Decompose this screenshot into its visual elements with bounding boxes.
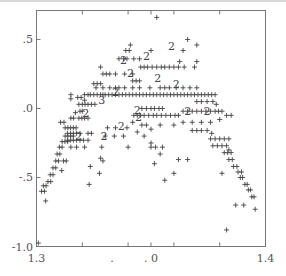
plus-marker [130, 85, 135, 90]
plus-marker [224, 143, 229, 148]
plus-marker [194, 99, 199, 104]
plus-marker [224, 227, 229, 232]
plus-marker [135, 129, 140, 134]
plus-marker [167, 85, 172, 90]
plus-marker [152, 106, 157, 111]
plus-marker [48, 179, 53, 184]
plus-marker [219, 109, 224, 114]
plus-marker [137, 56, 142, 61]
scatter-chart: 1.3.. 01.4 .5.0-.5-1.0 3222222222222222 [0, 0, 286, 276]
plus-marker [181, 120, 186, 125]
plus-marker [241, 203, 246, 208]
plus-marker [112, 134, 117, 139]
x-tick-label: 1.4 [257, 252, 275, 265]
plus-marker [194, 128, 199, 133]
plus-marker [199, 99, 204, 104]
plus-marker [113, 71, 118, 76]
plus-marker [107, 71, 112, 76]
plus-marker [150, 65, 155, 70]
overplot-label: 2 [173, 78, 180, 91]
plus-marker [234, 164, 239, 169]
y-tick-label: .0 [23, 102, 34, 115]
plus-marker [194, 109, 199, 114]
plus-marker [167, 65, 172, 70]
plus-marker [92, 102, 97, 107]
plus-marker [128, 43, 133, 48]
plus-marker [208, 120, 213, 125]
plus-marker [190, 120, 195, 125]
plus-marker [147, 85, 152, 90]
plus-marker [82, 98, 87, 103]
overplot-label: 2 [143, 50, 150, 63]
plus-marker [86, 138, 91, 143]
plus-marker [68, 92, 73, 97]
plus-marker [162, 85, 167, 90]
plus-marker [253, 207, 258, 212]
plus-marker [226, 136, 231, 141]
plus-marker [154, 65, 159, 70]
plus-marker [229, 150, 234, 155]
plus-marker [126, 145, 131, 150]
plus-marker [239, 169, 244, 174]
y-tick-label: -1.0 [12, 241, 33, 254]
plus-marker [182, 65, 187, 70]
plus-marker [210, 99, 215, 104]
plus-marker [50, 172, 55, 177]
plus-marker [219, 143, 224, 148]
plus-marker [57, 152, 62, 157]
plus-marker [98, 156, 103, 161]
plus-marker [208, 136, 213, 141]
plus-marker [171, 65, 176, 70]
plus-marker [176, 113, 181, 118]
plus-marker [171, 123, 176, 128]
plus-marker [177, 59, 182, 64]
overplot-label: 2 [134, 104, 141, 117]
plus-marker [131, 56, 136, 61]
plus-marker [94, 85, 99, 90]
overplot-label: 2 [127, 67, 134, 80]
plus-marker [87, 182, 92, 187]
plus-marker [194, 59, 199, 64]
plus-marker [64, 158, 69, 163]
x-tick-label: 1.3 [28, 252, 46, 265]
plus-marker [137, 78, 142, 83]
plus-marker [217, 117, 222, 122]
plus-marker [152, 161, 157, 166]
plus-marker [214, 102, 219, 107]
plus-marker [43, 198, 48, 203]
plus-marker [245, 182, 250, 187]
overplot-label: 2 [118, 120, 125, 133]
plus-marker [122, 85, 127, 90]
overplot-label: 2 [184, 105, 191, 118]
plus-marker [127, 48, 132, 53]
plus-marker [171, 171, 176, 176]
plus-marker [159, 113, 164, 118]
plus-marker [56, 158, 61, 163]
plus-marker [154, 113, 159, 118]
plus-marker [100, 85, 105, 90]
plus-marker [68, 145, 73, 150]
plus-marker [176, 157, 181, 162]
plus-marker [158, 85, 163, 90]
overplot-count-labels: 3222222222222222 [75, 40, 210, 143]
plus-marker [124, 125, 129, 130]
plus-marker [194, 43, 199, 48]
plus-marker [158, 123, 163, 128]
plus-marker [219, 171, 224, 176]
y-tick-label: .5 [23, 33, 34, 46]
plus-marker [60, 145, 65, 150]
overplot-label: 3 [98, 94, 105, 107]
plus-marker [229, 113, 234, 118]
plus-marker [226, 147, 231, 152]
plus-marker [61, 120, 66, 125]
plus-marker [144, 106, 149, 111]
plus-marker [213, 92, 218, 97]
plus-marker [240, 175, 245, 180]
overplot-label: 2 [168, 40, 175, 53]
plus-marker [88, 164, 93, 169]
plus-marker [98, 81, 103, 86]
overplot-label: 2 [82, 107, 89, 120]
plus-marker [217, 136, 222, 141]
plus-marker [142, 134, 147, 139]
plus-marker [74, 145, 79, 150]
